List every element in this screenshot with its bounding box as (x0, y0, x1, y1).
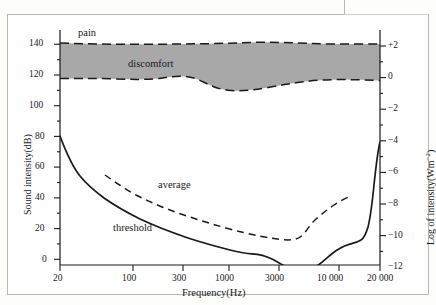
y-right-tick-m12: −12 (388, 262, 403, 272)
y-right-axis-title: Log of intensity(Wm−2) (424, 150, 436, 245)
x-tick-1000: 1000 (215, 274, 234, 284)
y-left-tick-80: 80 (35, 132, 45, 142)
x-tick-100: 100 (122, 274, 136, 284)
y-left-tick-140: 140 (29, 39, 43, 49)
y-left-tick-40: 40 (35, 193, 45, 203)
y-left-tick-60: 60 (35, 162, 45, 172)
x-tick-10000: 10 000 (317, 274, 343, 284)
y-right-ticks (380, 46, 386, 251)
y-right-tick-plus2: +2 (388, 41, 398, 51)
y-right-tick-m2: −2 (388, 104, 398, 114)
y-left-tick-120: 120 (29, 70, 43, 80)
x-tick-300: 300 (172, 274, 186, 284)
threshold-curve (60, 136, 380, 270)
y-right-axis-title-exponent: −2 (424, 153, 432, 160)
x-tick-3000: 3000 (265, 274, 284, 284)
y-right-tick-m10: −10 (388, 231, 403, 241)
annotation-discomfort: discomfort (128, 59, 174, 70)
y-right-tick-m8: −8 (388, 199, 398, 209)
y-left-tick-0: 0 (42, 255, 47, 265)
annotation-pain: pain (78, 28, 96, 39)
y-left-ticks (54, 44, 60, 259)
y-right-axis-title-main: Log of intensity(Wm (425, 161, 436, 245)
audiogram-chart: 140 120 100 80 60 40 20 0 +2 0 −2 −4 −6 … (0, 0, 436, 305)
annotation-threshold: threshold (113, 223, 152, 234)
pain-curve (60, 42, 380, 44)
x-ticks (60, 265, 380, 271)
x-tick-20000: 20 000 (367, 274, 393, 284)
x-axis-title: Frequency(Hz) (182, 288, 246, 299)
y-left-tick-100: 100 (29, 101, 43, 111)
figure-page: 140 120 100 80 60 40 20 0 +2 0 −2 −4 −6 … (0, 0, 436, 305)
annotation-average: average (158, 180, 191, 191)
y-right-axis-title-tail: ) (425, 150, 436, 153)
chart-svg (0, 0, 436, 305)
y-right-tick-m4: −4 (388, 136, 398, 146)
discomfort-band (60, 42, 380, 91)
y-left-tick-20: 20 (35, 224, 45, 234)
y-left-axis-title: Sound intensity(dB) (22, 134, 33, 215)
x-tick-20: 20 (53, 274, 63, 284)
y-right-tick-0: 0 (388, 72, 393, 82)
y-right-tick-m6: −6 (388, 167, 398, 177)
